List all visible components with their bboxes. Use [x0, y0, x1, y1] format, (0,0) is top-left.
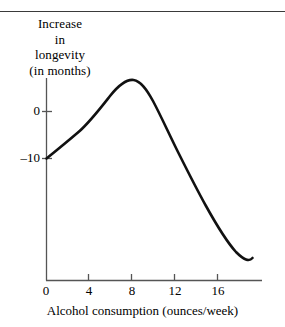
y-tick-label-minus10: –10 — [2, 150, 40, 166]
x-axis-title: Alcohol consumption (ounces/week) — [0, 303, 285, 319]
x-tick-label-16: 16 — [206, 283, 230, 299]
y-tick-label-0: 0 — [8, 103, 40, 119]
figure-canvas: Increase in longevity (in months) 0 –10 … — [0, 0, 285, 327]
longevity-curve — [47, 80, 253, 260]
plot-area — [0, 0, 285, 327]
x-tick-label-0: 0 — [36, 283, 56, 299]
x-tick-label-4: 4 — [79, 283, 99, 299]
x-tick-label-8: 8 — [122, 283, 142, 299]
x-tick-label-12: 12 — [163, 283, 187, 299]
axes-group — [46, 78, 262, 281]
